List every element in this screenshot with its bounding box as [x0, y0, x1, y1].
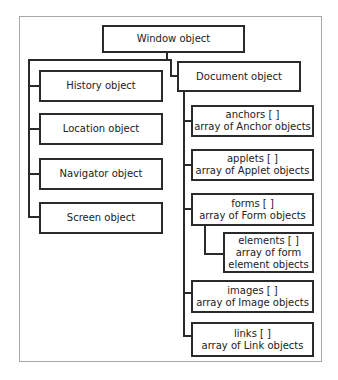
images-node: images [ ] array of Image objects — [191, 280, 314, 313]
node-label: Navigator object — [60, 168, 143, 180]
node-desc: array of Applet objects — [196, 165, 310, 177]
connector — [204, 225, 206, 255]
node-label: Screen object — [67, 212, 135, 224]
connector — [183, 91, 185, 337]
connector — [204, 253, 224, 255]
node-label: Document object — [196, 71, 282, 83]
elements-node: elements [ ] array of form element objec… — [223, 232, 314, 273]
applets-node: applets [ ] array of Applet objects — [191, 149, 314, 181]
node-desc: array of Image objects — [196, 297, 309, 309]
node-label: Window object — [137, 33, 210, 45]
node-title: elements [ ] — [238, 235, 299, 247]
node-title: anchors [ ] — [226, 109, 280, 121]
connector — [28, 59, 168, 61]
node-label: Location object — [63, 123, 139, 135]
navigator-object-node: Navigator object — [39, 158, 163, 190]
node-title: images [ ] — [227, 285, 278, 297]
connector — [166, 59, 172, 61]
forms-node: forms [ ] array of Form objects — [191, 193, 314, 226]
links-node: links [ ] array of Link objects — [191, 322, 314, 357]
document-object-node: Document object — [177, 61, 301, 92]
anchors-node: anchors [ ] array of Anchor objects — [191, 105, 314, 137]
node-title: links [ ] — [234, 328, 271, 340]
screen-object-node: Screen object — [39, 202, 163, 234]
node-title: forms [ ] — [231, 198, 274, 210]
node-desc: array of Anchor objects — [194, 121, 311, 133]
node-desc: array of Form objects — [199, 210, 306, 222]
node-desc: element objects — [228, 259, 308, 271]
connector — [28, 59, 30, 218]
history-object-node: History object — [39, 70, 163, 102]
location-object-node: Location object — [39, 113, 163, 145]
window-object-node: Window object — [102, 25, 245, 53]
node-desc: array of Link objects — [202, 340, 304, 352]
node-desc: array of form — [236, 247, 302, 259]
node-label: History object — [66, 80, 136, 92]
node-title: applets [ ] — [227, 153, 278, 165]
